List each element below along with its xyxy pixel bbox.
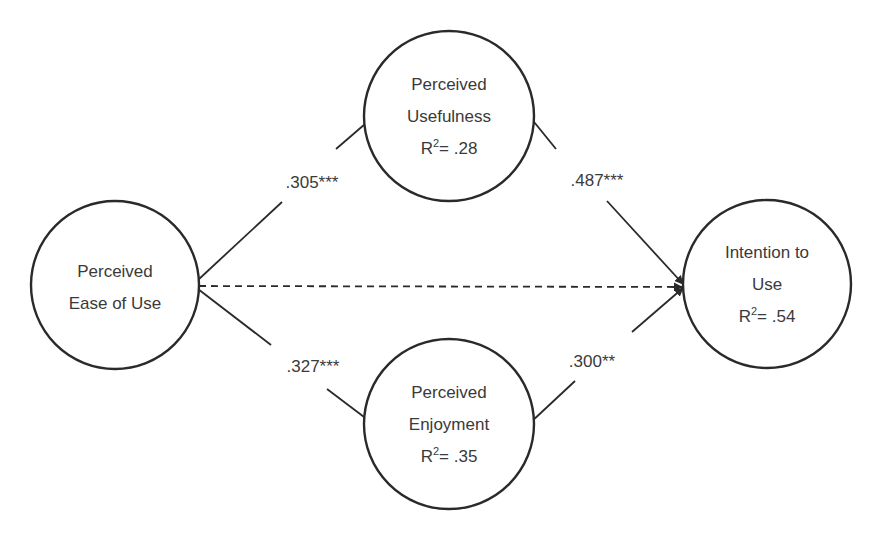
edge-pe-to-itu: .300** [530, 288, 683, 423]
node-perceived-enjoyment: Perceived Enjoyment R2= .35 [364, 339, 534, 509]
dashed-direct-path [199, 286, 682, 287]
edge-line-segment [198, 289, 271, 345]
node-r-squared: R2= .28 [421, 137, 478, 158]
edge-label-peou-pu: .305*** [286, 173, 339, 192]
node-label-line-2: Ease of Use [69, 294, 162, 313]
edge-line-segment-arrow [607, 201, 683, 284]
node-label-line-1: Intention to [725, 243, 809, 262]
node-r-squared: R2= .35 [421, 445, 478, 466]
node-circle [31, 201, 199, 369]
edge-pu-to-itu: .487*** [530, 117, 683, 284]
edge-peou-to-pe: .327*** [198, 289, 372, 423]
edge-peou-to-pu: .305*** [198, 118, 372, 280]
node-perceived-usefulness: Perceived Usefulness R2= .28 [364, 31, 534, 201]
node-label-line-1: Perceived [411, 75, 487, 94]
edge-label-pu-itu: .487*** [571, 171, 624, 190]
edge-label-peou-pe: .327*** [287, 357, 340, 376]
edge-line-segment-arrow [632, 288, 683, 332]
node-label-line-2: Use [752, 275, 782, 294]
edge-line-segment [198, 202, 282, 280]
node-label-line-2: Enjoyment [409, 415, 490, 434]
node-r-squared: R2= .54 [739, 305, 796, 326]
edge-label-pe-itu: .300** [569, 352, 616, 371]
node-label-line-2: Usefulness [407, 107, 491, 126]
edge-line-segment [530, 381, 575, 423]
node-intention-to-use: Intention to Use R2= .54 [683, 200, 851, 368]
edge-peou-to-itu-direct [199, 286, 682, 287]
node-label-line-1: Perceived [411, 383, 487, 402]
node-perceived-ease-of-use: Perceived Ease of Use [31, 201, 199, 369]
node-label-line-1: Perceived [77, 262, 153, 281]
path-model-diagram: .305*** .487*** .327*** .300** Perceived [0, 0, 893, 535]
